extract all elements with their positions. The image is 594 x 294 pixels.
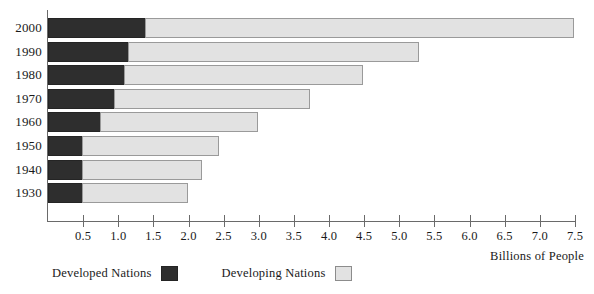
x-axis-tick-6.5 xyxy=(505,215,506,227)
x-axis-tick-label-2.5: 2.5 xyxy=(204,229,244,244)
bar-row xyxy=(48,42,419,62)
x-axis-tick-4.0 xyxy=(329,215,330,227)
x-axis-tick-label-6.5: 6.5 xyxy=(485,229,525,244)
x-axis-tick-0.5 xyxy=(83,215,84,227)
x-axis-tick-7.0 xyxy=(540,215,541,227)
bar-row xyxy=(48,18,574,38)
bar-row xyxy=(48,136,219,156)
bar-row xyxy=(48,112,258,132)
bar-segment-developed xyxy=(48,112,101,132)
x-axis-tick-label-2.0: 2.0 xyxy=(169,229,209,244)
x-axis-line xyxy=(47,221,575,222)
x-axis-tick-label-5.5: 5.5 xyxy=(414,229,454,244)
y-axis-label-2000: 2000 xyxy=(2,18,42,38)
x-axis-tick-3.0 xyxy=(259,215,260,227)
bar-segment-developing xyxy=(124,65,363,85)
y-axis-label-1940: 1940 xyxy=(2,160,42,180)
bar-segment-developing xyxy=(128,42,420,62)
x-axis-tick-7.5 xyxy=(575,215,576,227)
x-axis-tick-label-4.5: 4.5 xyxy=(344,229,384,244)
y-axis-label-1930: 1930 xyxy=(2,183,42,203)
y-axis-label-1950: 1950 xyxy=(2,136,42,156)
x-axis-tick-label-1.5: 1.5 xyxy=(133,229,173,244)
bar-segment-developed xyxy=(48,42,129,62)
bar-segment-developing xyxy=(100,112,258,132)
y-axis-label-1990: 1990 xyxy=(2,42,42,62)
x-axis-tick-label-6.0: 6.0 xyxy=(450,229,490,244)
x-axis-title: Billions of People xyxy=(490,249,584,264)
bar-segment-developing xyxy=(145,18,574,38)
bar-segment-developed xyxy=(48,183,83,203)
x-axis-tick-6.0 xyxy=(470,215,471,227)
dark-square-swatch xyxy=(161,266,178,281)
x-axis-tick-5.0 xyxy=(399,215,400,227)
bar-segment-developed xyxy=(48,160,83,180)
x-axis-tick-label-5.0: 5.0 xyxy=(379,229,419,244)
x-axis-tick-label-3.5: 3.5 xyxy=(274,229,314,244)
bar-segment-developed xyxy=(48,136,83,156)
light-square-swatch xyxy=(335,266,352,281)
bar-segment-developing xyxy=(82,183,187,203)
bar-row xyxy=(48,183,188,203)
bar-segment-developed xyxy=(48,89,115,109)
legend-label-developing: Developing Nations xyxy=(222,266,326,281)
bar-segment-developed xyxy=(48,18,146,38)
x-axis-tick-label-7.0: 7.0 xyxy=(520,229,560,244)
legend-entry-developed: Developed Nations xyxy=(52,266,178,281)
x-axis-tick-2.0 xyxy=(189,215,190,227)
x-axis-tick-3.5 xyxy=(294,215,295,227)
bar-segment-developing xyxy=(82,160,201,180)
plot-area xyxy=(48,16,575,206)
y-axis-label-1960: 1960 xyxy=(2,112,42,132)
x-axis-tick-1.0 xyxy=(118,215,119,227)
bar-segment-developing xyxy=(82,136,219,156)
x-axis-tick-2.5 xyxy=(224,215,225,227)
x-axis-tick-label-3.0: 3.0 xyxy=(239,229,279,244)
y-axis-label-1970: 1970 xyxy=(2,89,42,109)
population-stacked-bar-chart: 20001990198019701960195019401930 0.51.01… xyxy=(0,0,594,294)
x-axis-tick-5.5 xyxy=(434,215,435,227)
chart-legend: Developed Nations Developing Nations xyxy=(52,266,352,281)
x-axis-tick-label-1.0: 1.0 xyxy=(98,229,138,244)
x-axis-tick-1.5 xyxy=(153,215,154,227)
bar-segment-developed xyxy=(48,65,125,85)
bar-row xyxy=(48,65,363,85)
bar-row xyxy=(48,89,310,109)
legend-entry-developing: Developing Nations xyxy=(222,266,352,281)
legend-label-developed: Developed Nations xyxy=(52,266,152,281)
x-axis-tick-label-4.0: 4.0 xyxy=(309,229,349,244)
bar-segment-developing xyxy=(114,89,311,109)
bar-row xyxy=(48,160,202,180)
x-axis-tick-label-7.5: 7.5 xyxy=(555,229,594,244)
x-axis-tick-4.5 xyxy=(364,215,365,227)
y-axis-label-1980: 1980 xyxy=(2,65,42,85)
x-axis-tick-label-0.5: 0.5 xyxy=(63,229,103,244)
